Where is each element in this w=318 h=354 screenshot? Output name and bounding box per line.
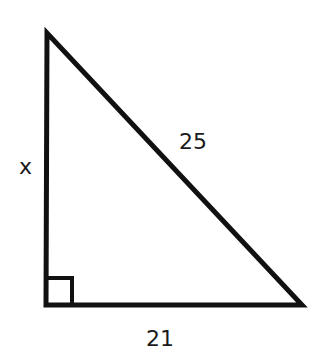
label-horizontal-leg: 21: [146, 328, 174, 350]
triangle-diagram: [0, 0, 318, 354]
right-angle-marker: [46, 278, 72, 305]
label-hypotenuse: 25: [179, 131, 207, 153]
label-vertical-leg: x: [19, 156, 32, 178]
triangle: [46, 33, 302, 305]
